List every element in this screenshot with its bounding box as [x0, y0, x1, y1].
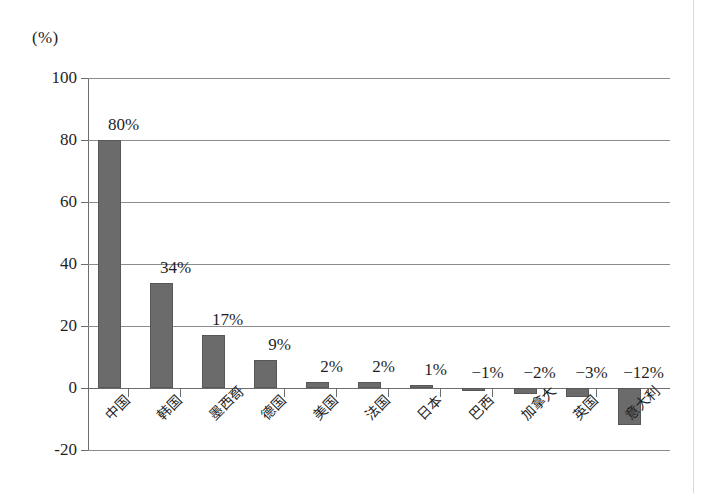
gridline	[88, 78, 670, 79]
bar-value-label: −3%	[575, 363, 607, 383]
bar	[150, 283, 173, 388]
x-axis-tick-mark	[596, 388, 597, 397]
bar	[98, 140, 121, 388]
bar	[410, 385, 433, 388]
y-axis-tick-label: 60	[60, 192, 77, 212]
x-axis-tick-mark	[284, 388, 285, 397]
y-axis-tick-label: -20	[54, 440, 77, 460]
bar-value-label: −12%	[623, 363, 664, 383]
bar-value-label: 17%	[212, 310, 243, 330]
x-axis-tick-mark	[388, 388, 389, 397]
y-axis-tick-mark	[81, 388, 88, 389]
plot-area: 100806040200-20 80%34%17%9%2%2%1%−1%−2%−…	[88, 78, 670, 450]
gridline	[88, 450, 670, 451]
bar-value-label: 2%	[320, 357, 343, 377]
x-axis-category-label: 加拿大	[516, 380, 560, 424]
bar-value-label: 80%	[108, 115, 139, 135]
y-axis-tick-mark	[81, 264, 88, 265]
bar-value-label: 9%	[268, 335, 291, 355]
bar	[358, 382, 381, 388]
bar-value-label: 2%	[372, 357, 395, 377]
x-axis-tick-mark	[180, 388, 181, 397]
x-axis-tick-mark	[440, 388, 441, 397]
bar	[306, 382, 329, 388]
x-axis-tick-mark	[88, 388, 89, 397]
bar-value-label: −1%	[471, 363, 503, 383]
bar-value-label: −2%	[523, 363, 555, 383]
y-axis-unit-label: (%)	[32, 28, 58, 48]
y-axis-tick-mark	[81, 326, 88, 327]
gridline	[88, 326, 670, 327]
y-axis-tick-label: 80	[60, 130, 77, 150]
x-axis-tick-mark	[336, 388, 337, 397]
y-axis-tick-mark	[81, 78, 88, 79]
y-axis-tick-label: 100	[52, 68, 78, 88]
y-axis-tick-label: 20	[60, 316, 77, 336]
y-axis-tick-label: 40	[60, 254, 77, 274]
x-axis-tick-mark	[492, 388, 493, 397]
chart-figure: (%) 100806040200-20 80%34%17%9%2%2%1%−1%…	[0, 0, 712, 493]
bar-value-label: 34%	[160, 258, 191, 278]
gridline	[88, 202, 670, 203]
gridline	[88, 140, 670, 141]
page-edge-line	[693, 0, 694, 493]
bar-value-label: 1%	[424, 360, 447, 380]
bar	[202, 335, 225, 388]
y-axis-tick-mark	[81, 140, 88, 141]
x-axis-tick-mark	[128, 388, 129, 397]
y-axis-tick-mark	[81, 202, 88, 203]
y-axis-tick-label: 0	[69, 378, 78, 398]
y-axis-tick-mark	[81, 450, 88, 451]
bar	[254, 360, 277, 388]
